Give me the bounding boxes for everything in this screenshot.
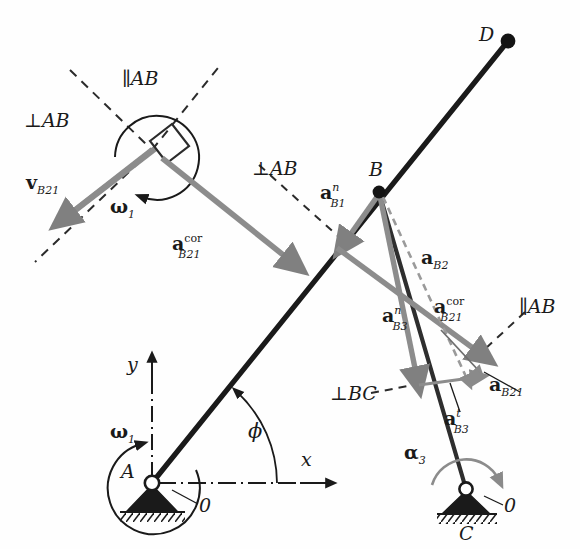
ab21-sub2: 21 <box>508 386 523 399</box>
label-angle-phi: ϕ <box>248 419 262 443</box>
kinematic-diagram: ⊥AB ∥AB ⊥AB ∥AB ⊥BC vB21 acorB21 anB1 <box>0 0 580 549</box>
label-a-b21: aB21 <box>489 373 523 399</box>
parallel-ab-line-right <box>470 312 525 363</box>
label-axis-y: y <box>126 353 138 375</box>
perp-ab-text-2: AB <box>268 157 298 179</box>
label-zero-a: 0 <box>199 494 211 516</box>
anb3-sub: B <box>391 320 400 333</box>
perp-symbol-2: ⊥ <box>252 157 270 179</box>
label-perp-bc: ⊥BC <box>330 382 377 404</box>
label-a-cor-b21-left: acorB21 <box>172 232 203 261</box>
joint-b-dot <box>373 186 386 199</box>
perp-bc-line <box>371 383 424 393</box>
perp-ab-text-1: AB <box>40 109 70 131</box>
acor-right-sub2: 21 <box>447 311 462 324</box>
label-perp-ab-upper: ⊥AB <box>24 109 70 131</box>
ab2-base: a <box>421 246 433 268</box>
ground-pivot-a <box>120 476 198 522</box>
label-v-b21: vB21 <box>25 171 59 197</box>
anb1-sup: n <box>332 181 339 194</box>
label-perp-ab-middle: ⊥AB <box>252 157 298 179</box>
parallel-ab-text-1: AB <box>129 67 159 89</box>
label-omega1-slider: ω1 <box>110 195 135 221</box>
ab2-sub: B <box>432 259 441 272</box>
label-parallel-ab-right: ∥AB <box>519 295 556 317</box>
omega1-slider-arc-path <box>115 116 199 200</box>
link-bc <box>379 192 466 489</box>
parallel-ab-text-2: AB <box>526 295 556 317</box>
v-b21-base: v <box>25 171 38 193</box>
ab2-sub2: 2 <box>440 259 448 272</box>
acor-right-sub: B <box>439 311 448 324</box>
label-zero-c: 0 <box>504 494 516 516</box>
atb3-sub2: 3 <box>462 423 469 436</box>
parallel-symbol-1: ∥ <box>122 67 131 89</box>
perp-symbol-3: ⊥ <box>330 382 348 404</box>
pivot-a-circle <box>145 476 159 490</box>
omega1-slider-symbol: ω <box>110 195 128 217</box>
atb3-sup: t <box>456 407 461 420</box>
leader-zero-a <box>172 490 198 504</box>
ground-pivot-c <box>437 482 503 524</box>
parallel-symbol-2: ∥ <box>519 295 528 317</box>
omega1-arc-at-slider <box>115 116 199 200</box>
omega1-slider-sub: 1 <box>128 208 135 221</box>
diagram-canvas: ⊥AB ∥AB ⊥AB ∥AB ⊥BC vB21 acorB21 anB1 <box>0 0 580 549</box>
acor-left-sub: B <box>177 248 186 261</box>
ab21-sub: B <box>500 386 509 399</box>
perp-bc-text: BC <box>347 382 377 404</box>
label-point-a: A <box>119 460 135 482</box>
label-point-d: D <box>478 23 494 45</box>
omega1-a-symbol: ω <box>110 420 128 442</box>
v-b21-sub: B <box>36 184 45 197</box>
link-end-d-dot <box>501 34 516 49</box>
label-parallel-ab-upper: ∥AB <box>122 67 159 89</box>
right-angle-marker <box>150 124 189 163</box>
label-alpha3: α3 <box>404 441 426 467</box>
label-point-b: B <box>368 158 383 180</box>
pivot-c-circle <box>459 482 472 495</box>
pivot-a-hatch <box>120 512 185 522</box>
omega1-a-sub: 1 <box>128 433 135 446</box>
label-omega1-a: ω1 <box>110 420 135 446</box>
vector-arrows <box>66 150 481 385</box>
label-axis-x: x <box>301 448 312 470</box>
vector-v-b21 <box>66 150 152 217</box>
perp-symbol-1: ⊥ <box>24 109 42 131</box>
alpha3-sub: 3 <box>419 454 426 467</box>
ab21-base: a <box>489 373 501 395</box>
parallel-ab-line-upper <box>152 63 222 150</box>
v-b21-sub2: 21 <box>44 184 59 197</box>
anb1-sub2: 1 <box>339 197 346 210</box>
label-point-c: C <box>459 522 474 544</box>
anb1-sub: B <box>329 197 338 210</box>
vector-a-n-b1 <box>345 194 379 242</box>
anb3-sub2: 3 <box>401 320 408 333</box>
leader-zero-c <box>484 496 503 505</box>
acor-left-sup: cor <box>184 232 203 245</box>
atb3-sub: B <box>453 423 462 436</box>
acor-left-sub2: 21 <box>185 248 200 261</box>
anb3-sup: n <box>394 304 401 317</box>
label-a-b2: aB2 <box>421 246 448 272</box>
label-a-n-b1: anB1 <box>320 181 346 210</box>
alpha3-symbol: α <box>404 441 419 463</box>
vector-a-t-b3 <box>419 377 478 385</box>
acor-right-sup: cor <box>446 295 465 308</box>
